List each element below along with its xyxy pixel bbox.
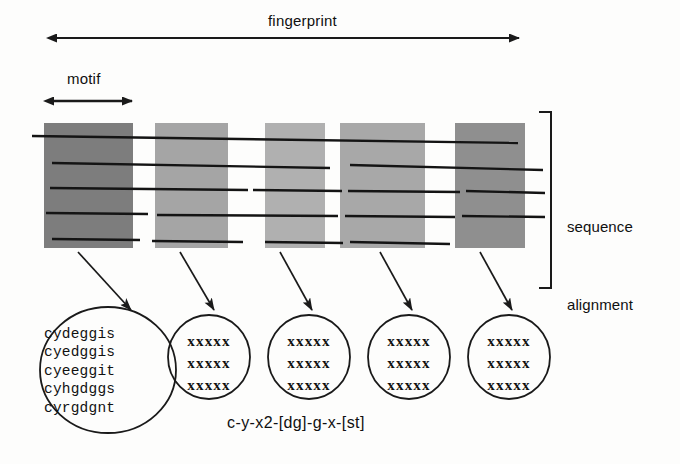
connector-arrow-1 [78, 252, 131, 310]
sequence-alignment-label-line2: alignment [567, 292, 633, 318]
motif-block-2 [155, 123, 228, 248]
connector-arrow-2 [180, 252, 214, 310]
diagram-canvas: fingerprint motif sequence alignment cyd… [0, 0, 680, 464]
motif-placeholder-text-3: xxxxx xxxxx xxxxx [272, 330, 346, 396]
consensus-pattern-label: c-y-x2-[dg]-g-x-[st] [227, 414, 365, 432]
motif-label: motif [67, 70, 101, 87]
connector-arrow-4 [380, 252, 412, 310]
connector-arrow-3 [280, 252, 312, 310]
motif-placeholder-text-2: xxxxx xxxxx xxxxx [172, 330, 246, 396]
motif-sequences-text: cydeggis cyedggis cyeeggit cyhgdggs cyrg… [44, 325, 115, 417]
sequence-alignment-label: sequence alignment [567, 162, 633, 370]
motif-placeholder-text-5: xxxxx xxxxx xxxxx [472, 330, 546, 396]
motif-block-3 [265, 123, 325, 248]
fingerprint-label: fingerprint [268, 12, 337, 29]
connector-arrow-group [78, 252, 512, 310]
sequence-alignment-label-line1: sequence [567, 214, 633, 240]
sequence-alignment-bracket [539, 112, 551, 288]
connector-arrow-5 [480, 252, 512, 310]
motif-placeholder-text-4: xxxxx xxxxx xxxxx [372, 330, 446, 396]
motif-block-1 [44, 123, 133, 248]
